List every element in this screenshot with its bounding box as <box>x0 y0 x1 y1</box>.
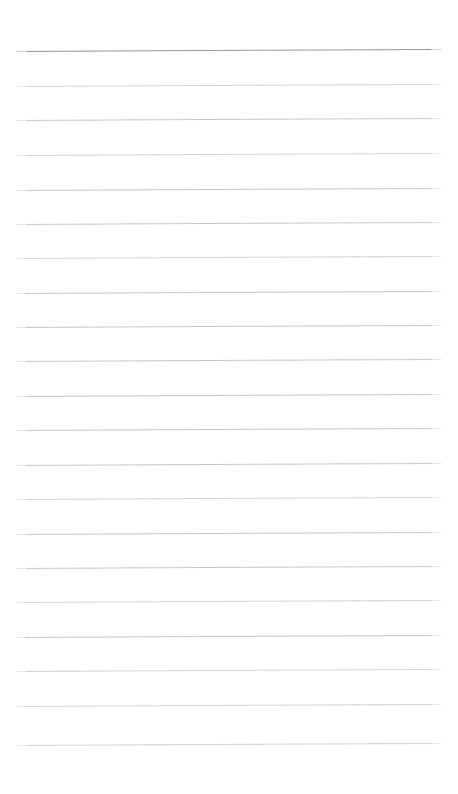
writing-area[interactable] <box>16 51 441 745</box>
lined-paper-page <box>0 0 458 794</box>
